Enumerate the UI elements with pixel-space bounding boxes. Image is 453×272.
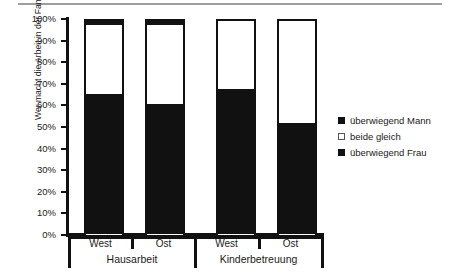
y-tick-mark bbox=[61, 191, 67, 193]
chart-legend: überwiegend Mannbeide gleichüberwiegend … bbox=[338, 113, 450, 161]
y-axis-label: Wer macht die Arbeit in der Familie (%)? bbox=[33, 0, 43, 128]
legend-swatch-icon bbox=[338, 133, 345, 140]
segment-beide-gleich bbox=[147, 25, 183, 104]
x-axis: WestOstWestOstHausarbeitKinderbetreuung bbox=[68, 236, 324, 270]
y-tick-mark bbox=[61, 83, 67, 85]
y-tick-mark bbox=[61, 18, 67, 20]
segment-ueberwiegend-frau bbox=[86, 94, 122, 235]
legend-swatch-icon bbox=[338, 149, 345, 156]
y-tick-mark bbox=[61, 234, 67, 236]
segment-ueberwiegend-frau bbox=[147, 104, 183, 234]
y-tick-mark bbox=[61, 104, 67, 106]
y-tick-label: 20% bbox=[12, 187, 56, 197]
y-tick-mark bbox=[61, 61, 67, 63]
chart-figure: 100%90%80%70%60%50%40%30%20%10%0% Wer ma… bbox=[0, 0, 453, 272]
y-tick-mark bbox=[61, 212, 67, 214]
legend-label: beide gleich bbox=[350, 131, 401, 142]
x-category-label: West bbox=[196, 238, 257, 250]
bar-kinderbetreuung-west[interactable] bbox=[216, 19, 256, 235]
legend-swatch-icon bbox=[338, 117, 345, 124]
bar-hausarbeit-west[interactable] bbox=[84, 19, 124, 235]
y-tick-label: 0% bbox=[12, 230, 56, 240]
y-tick-label: 30% bbox=[12, 165, 56, 175]
plot-area bbox=[68, 19, 324, 235]
x-category-label: West bbox=[70, 238, 131, 250]
legend-item[interactable]: beide gleich bbox=[338, 129, 450, 144]
segment-ueberwiegend-frau bbox=[218, 89, 254, 234]
legend-item[interactable]: überwiegend Mann bbox=[338, 113, 450, 128]
segment-beide-gleich bbox=[86, 25, 122, 93]
y-tick-mark bbox=[61, 169, 67, 171]
scan-artifact-line bbox=[18, 3, 442, 5]
segment-ueberwiegend-frau bbox=[279, 123, 315, 234]
x-category-label: Ost bbox=[133, 238, 194, 250]
x-axis-separator bbox=[321, 236, 324, 268]
x-group-label: Hausarbeit bbox=[70, 253, 194, 265]
legend-item[interactable]: überwiegend Frau bbox=[338, 145, 450, 160]
bar-hausarbeit-ost[interactable] bbox=[145, 19, 185, 235]
segment-beide-gleich bbox=[218, 21, 254, 89]
y-tick-label: 40% bbox=[12, 144, 56, 154]
legend-label: überwiegend Mann bbox=[350, 115, 431, 126]
x-axis-bracket-line bbox=[68, 236, 324, 239]
y-tick-label: 10% bbox=[12, 208, 56, 218]
segment-beide-gleich bbox=[279, 21, 315, 123]
y-tick-mark bbox=[61, 148, 67, 150]
bar-kinderbetreuung-ost[interactable] bbox=[277, 19, 317, 235]
x-group-label: Kinderbetreuung bbox=[196, 253, 321, 265]
x-category-label: Ost bbox=[260, 238, 321, 250]
legend-label: überwiegend Frau bbox=[350, 147, 427, 158]
y-tick-mark bbox=[61, 126, 67, 128]
y-tick-mark bbox=[61, 40, 67, 42]
